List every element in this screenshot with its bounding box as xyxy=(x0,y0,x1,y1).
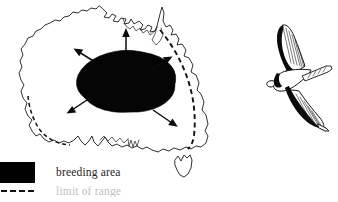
figure-container: breeding area limit of range xyxy=(0,0,338,202)
legend-item-range-limit: limit of range xyxy=(0,185,338,197)
legend: breeding area limit of range xyxy=(0,160,338,197)
bird-head xyxy=(267,81,275,87)
bird-in-flight xyxy=(267,25,332,131)
legend-item-breeding-area: breeding area xyxy=(0,160,338,185)
legend-label-range-limit: limit of range xyxy=(56,186,121,197)
legend-swatch-breeding-area xyxy=(0,162,35,183)
legend-label-breeding-area: breeding area xyxy=(56,167,121,179)
legend-swatch-range-limit xyxy=(0,185,35,197)
